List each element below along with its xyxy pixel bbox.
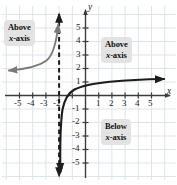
- callout-suffix: -axis: [110, 132, 127, 142]
- callout-suffix: -axis: [110, 50, 127, 60]
- x-axis-label: x: [167, 86, 171, 96]
- y-tick-label--1: -1: [72, 103, 80, 113]
- y-tick-label-2: 2: [76, 62, 81, 72]
- y-tick-label--2: -2: [72, 116, 80, 126]
- y-tick-label-4: 4: [76, 35, 81, 45]
- y-tick-label--5: -5: [72, 157, 80, 167]
- x-tick-label-1: 1: [96, 98, 101, 108]
- x-tick-label-4: 4: [135, 98, 140, 108]
- y-tick-label-3: 3: [76, 49, 81, 59]
- x-tick-label--3: -3: [40, 98, 48, 108]
- callout-line1: Below: [105, 121, 127, 131]
- callout-line1: Above: [8, 22, 31, 32]
- callout-above-x-axis-left: Above x-axis: [4, 20, 35, 46]
- callout-below-x-axis-right: Below x-axis: [101, 119, 131, 145]
- callout-line1: Above: [105, 39, 128, 49]
- callout-suffix: -axis: [13, 33, 30, 43]
- y-tick-label-1: 1: [76, 76, 81, 86]
- x-tick-label-3: 3: [122, 98, 127, 108]
- x-tick-label--5: -5: [14, 98, 22, 108]
- y-tick-label--4: -4: [72, 143, 80, 153]
- x-tick-label-5: 5: [148, 98, 153, 108]
- x-tick-label-2: 2: [109, 98, 114, 108]
- callout-line2: x-axis: [8, 33, 31, 44]
- x-tick-label--4: -4: [27, 98, 35, 108]
- x-tick-label--2: -2: [53, 98, 61, 108]
- callout-line2: x-axis: [105, 132, 127, 143]
- y-tick-label--3: -3: [72, 130, 80, 140]
- callout-line2: x-axis: [105, 50, 128, 61]
- callout-above-x-axis-right: Above x-axis: [101, 37, 132, 63]
- function-graph-figure: x y -5 -4 -3 -2 1 2 3 4 5 1 2 3 4 5 -1 -…: [0, 0, 177, 185]
- y-axis-label: y: [88, 2, 92, 12]
- y-tick-label-5: 5: [76, 22, 81, 32]
